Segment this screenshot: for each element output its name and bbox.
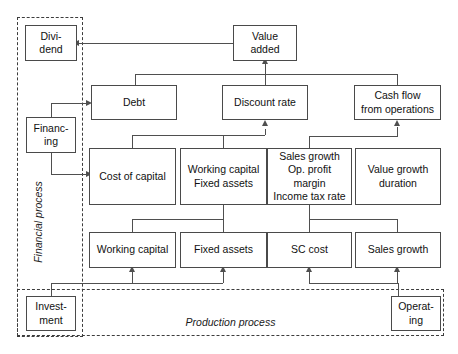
connector-drivers-riser [309, 136, 310, 148]
node-sales-growth-label: Sales growth [358, 243, 438, 256]
node-working-capital[interactable]: Working capital [89, 232, 176, 268]
node-value-drivers[interactable]: Sales growth Op. profit margin Income ta… [267, 148, 352, 205]
connector-sc-cost-riser [309, 205, 310, 232]
node-cash-flow-line2: from operations [357, 103, 438, 116]
node-dividend-line1: Divi- [28, 30, 74, 43]
zone-production-process: Production process [17, 289, 444, 336]
connector-financing-up-stem [51, 103, 52, 117]
node-wc-fa-line1: Working capital [183, 163, 264, 176]
node-cash-flow-line1: Cash flow [357, 89, 438, 102]
node-value-growth-line2: duration [358, 177, 438, 190]
node-debt-label: Debt [94, 96, 174, 109]
node-working-capital-fixed-assets[interactable]: Working capital Fixed assets [180, 148, 267, 205]
node-sc-cost-label: SC cost [270, 243, 349, 256]
node-investment-line1: Invest- [29, 300, 73, 313]
connector-debt-riser [135, 74, 136, 85]
connector-working-capital-riser [132, 219, 133, 232]
connector-bus-to-discount-rate [223, 135, 265, 136]
connector-sales-growth-riser [397, 219, 398, 232]
node-value-growth-line1: Value growth [358, 163, 438, 176]
diagram-canvas: Financial process Production process [0, 0, 458, 354]
node-sc-cost[interactable]: SC cost [267, 232, 352, 268]
node-financing[interactable]: Financ- ing [26, 117, 76, 153]
node-drivers-line1: Sales growth [270, 150, 349, 163]
connector-operating-bus [309, 283, 398, 284]
connector-row4-to-drivers-bus [309, 219, 398, 220]
arrowhead-discount-rate [262, 120, 268, 126]
connector-cost-of-capital-riser [132, 135, 133, 148]
connector-discount-rate-stem [265, 129, 266, 135]
node-discount-rate-label: Discount rate [225, 96, 305, 109]
node-dividend[interactable]: Divi- dend [25, 25, 77, 61]
node-working-capital-label: Working capital [92, 243, 173, 256]
node-operating[interactable]: Operat- ing [391, 296, 441, 331]
node-value-added-line1: Value [236, 30, 294, 43]
connector-value-growth-riser [397, 127, 398, 136]
connector-financing-down-stem [51, 152, 52, 174]
node-value-added[interactable]: Value added [233, 25, 297, 61]
node-financing-line2: ing [29, 135, 73, 148]
connector-financing-to-cost-of-capital [51, 174, 88, 175]
node-value-growth-duration[interactable]: Value growth duration [355, 148, 441, 205]
connector-financing-to-debt [51, 103, 88, 104]
node-drivers-line4: Income tax rate [270, 190, 349, 203]
node-drivers-line3: margin [270, 177, 349, 190]
node-value-added-line2: added [236, 43, 294, 56]
node-cost-of-capital-label: Cost of capital [92, 170, 173, 183]
connector-operating-to-sales-growth [397, 272, 398, 283]
node-operating-line1: Operat- [394, 300, 438, 313]
connector-fixed-assets-riser [223, 205, 224, 232]
connector-row3-to-cashflow-bus [309, 136, 398, 137]
node-investment[interactable]: Invest- ment [26, 296, 76, 331]
node-investment-line2: ment [29, 314, 73, 327]
connector-value-added-to-dividend [78, 43, 233, 44]
arrowhead-cash-flow [394, 120, 400, 126]
connector-cashflow-riser [397, 74, 398, 85]
node-discount-rate[interactable]: Discount rate [222, 85, 308, 120]
zone-financial-process-label: Financial process [32, 162, 44, 282]
node-fixed-assets-label: Fixed assets [183, 243, 264, 256]
node-dividend-line2: dend [28, 43, 74, 56]
node-drivers-line2: Op. profit [270, 163, 349, 176]
node-financing-line1: Financ- [29, 122, 73, 135]
node-cash-flow-from-operations[interactable]: Cash flow from operations [354, 85, 441, 120]
node-fixed-assets[interactable]: Fixed assets [180, 232, 267, 268]
connector-operating-to-sc-cost [309, 272, 310, 283]
connector-investment-stem [51, 283, 52, 296]
connector-wc-fa-riser [223, 135, 224, 148]
node-debt[interactable]: Debt [91, 85, 177, 120]
connector-investment-to-working-capital [132, 272, 133, 283]
node-cost-of-capital[interactable]: Cost of capital [89, 148, 176, 205]
connector-bus-to-value-added [135, 74, 398, 75]
connector-discount-rate-to-value-added [265, 66, 266, 85]
zone-production-process-label: Production process [18, 316, 443, 328]
connector-row3-to-discount-rate-bus [132, 135, 224, 136]
connector-investment-bus [51, 283, 223, 284]
node-sales-growth[interactable]: Sales growth [355, 232, 441, 268]
connector-operating-stem [398, 283, 399, 296]
node-wc-fa-line2: Fixed assets [183, 177, 264, 190]
connector-row4-to-wcfa-bus [132, 219, 223, 220]
node-operating-line2: ing [394, 314, 438, 327]
connector-investment-to-fixed-assets [223, 272, 224, 283]
